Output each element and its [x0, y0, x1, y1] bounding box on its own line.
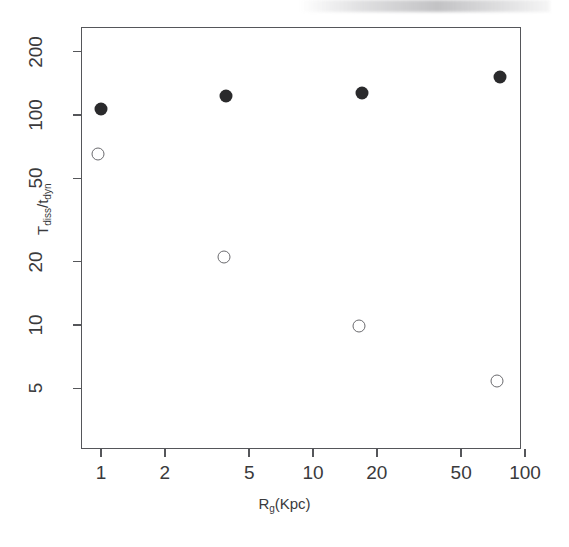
y-tick-5 — [73, 388, 81, 389]
y-tick-label-100: 100 — [25, 99, 47, 131]
figure-canvas: 5102050100200 125102050100 Tdiss/tdyn Rg… — [0, 0, 569, 547]
y-tick-label-5: 5 — [25, 383, 47, 394]
x-axis-title: Rg(Kpc) — [0, 495, 569, 514]
x-tick-50 — [460, 449, 461, 457]
y-axis-title-main: T — [34, 226, 51, 235]
y-axis-title-sub-dyn: dyn — [42, 184, 53, 200]
data-point-open-circles-3 — [491, 375, 504, 388]
y-tick-label-10: 10 — [25, 314, 47, 335]
x-axis-title-main: R — [258, 495, 269, 512]
x-tick-2 — [164, 449, 165, 457]
x-tick-100 — [524, 449, 525, 457]
x-tick-label-100: 100 — [509, 462, 541, 484]
y-tick-label-20: 20 — [25, 251, 47, 272]
data-point-filled-circles-0 — [95, 102, 108, 115]
data-point-filled-circles-2 — [355, 87, 368, 100]
x-tick-5 — [248, 449, 249, 457]
data-point-filled-circles-3 — [493, 70, 506, 83]
y-tick-label-200: 200 — [25, 36, 47, 68]
y-tick-100 — [73, 114, 81, 115]
x-tick-label-5: 5 — [244, 462, 255, 484]
y-axis-title-mid: /t — [34, 200, 51, 208]
y-axis-title: Tdiss/tdyn — [34, 184, 53, 235]
x-tick-10 — [312, 449, 313, 457]
y-tick-20 — [73, 261, 81, 262]
y-axis-title-sub-diss: diss — [42, 208, 53, 226]
plot-frame — [81, 27, 521, 449]
x-tick-20 — [376, 449, 377, 457]
data-point-open-circles-2 — [353, 319, 366, 332]
x-tick-label-1: 1 — [96, 462, 107, 484]
x-tick-label-2: 2 — [160, 462, 171, 484]
x-tick-1 — [100, 449, 101, 457]
y-tick-10 — [73, 324, 81, 325]
x-tick-label-10: 10 — [302, 462, 323, 484]
x-tick-label-50: 50 — [451, 462, 472, 484]
data-point-open-circles-1 — [217, 251, 230, 264]
data-point-filled-circles-1 — [220, 90, 233, 103]
data-point-open-circles-0 — [92, 148, 105, 161]
y-tick-50 — [73, 178, 81, 179]
x-tick-label-20: 20 — [366, 462, 387, 484]
x-axis-title-tail: (Kpc) — [275, 495, 311, 512]
scan-artifact — [300, 0, 550, 12]
y-tick-200 — [73, 51, 81, 52]
